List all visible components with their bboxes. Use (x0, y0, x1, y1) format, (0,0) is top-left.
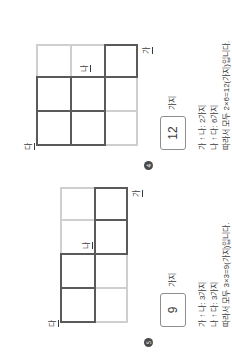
grid-seg-v (60, 287, 94, 289)
grid-seg-h (104, 44, 106, 78)
grid-seg-v (60, 219, 94, 221)
grid-seg-h (70, 78, 72, 146)
summary-line-5: 따라서 모두 3×3=9(가지)입니다. (220, 222, 231, 327)
grid-seg-v (36, 44, 104, 46)
grid-seg-h (60, 187, 62, 255)
problem-5: 5 다 나 (0, 177, 231, 353)
grid-seg-v (94, 321, 128, 323)
grid-seg-v (60, 253, 94, 255)
grid-seg-h (36, 44, 38, 78)
diagram-label-na-5: 나 (80, 242, 91, 249)
grid-seg-h (126, 187, 128, 255)
grid-seg-v (104, 110, 138, 112)
grid-seg-h (104, 78, 106, 146)
grid-seg-v (94, 219, 128, 221)
grid-seg-h (94, 255, 96, 323)
lattice-diagram-5 (60, 187, 128, 323)
lattice-diagram-4 (36, 44, 138, 146)
grid-seg-h (94, 187, 96, 255)
problem-marker-5: 5 (144, 338, 153, 347)
grid-seg-v (104, 76, 138, 78)
diagram-label-da-5: 다 (46, 320, 57, 327)
grid-seg-h (36, 78, 38, 146)
grid-seg-h (70, 44, 72, 78)
grid-seg-v (94, 287, 128, 289)
summary-line-4: 따라서 모두 2×6=12(가지)입니다. (220, 41, 231, 150)
page-stage: 4 다 나 (0, 0, 231, 353)
diagram-label-da-4: 다 (22, 143, 33, 150)
diagram-label-na-4: 나 (78, 65, 89, 72)
step-line-2-5: 나 ↑ 다: 3가지 (208, 282, 219, 327)
diagram-label-ga-5: 가 (130, 190, 141, 197)
answer-unit-4: 가지 (166, 96, 177, 110)
problem-4: 4 다 나 (0, 0, 231, 176)
grid-seg-v (104, 44, 138, 46)
step-line-1-5: 가 ↑ 나: 3가지 (196, 282, 207, 327)
step-line-2-4: 나 ↑ 다: 6가지 (208, 105, 219, 150)
grid-seg-v (36, 144, 104, 146)
grid-seg-v (60, 321, 94, 323)
step-line-1-4: 가 ↑ 나: 2가지 (196, 105, 207, 150)
grid-seg-v (94, 187, 128, 189)
grid-seg-h (136, 78, 138, 146)
answer-box-4[interactable]: 12 (160, 116, 186, 150)
grid-seg-v (104, 144, 138, 146)
answer-unit-5: 가지 (166, 273, 177, 287)
answer-box-5[interactable]: 9 (160, 293, 186, 327)
diagram-label-ga-4: 가 (140, 47, 151, 54)
problem-marker-4: 4 (144, 161, 153, 170)
grid-seg-v (36, 76, 104, 78)
grid-seg-h (60, 255, 62, 323)
grid-seg-v (60, 187, 94, 189)
grid-seg-v (94, 253, 128, 255)
grid-seg-v (36, 110, 104, 112)
grid-seg-h (126, 255, 128, 323)
grid-seg-h (136, 44, 138, 78)
